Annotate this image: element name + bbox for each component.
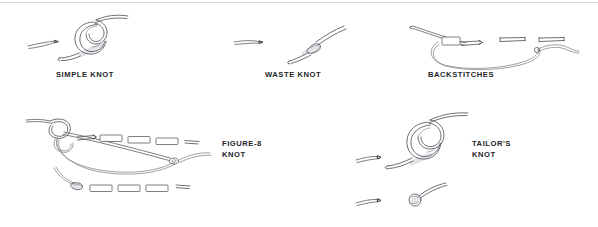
- label-tailors-knot: TAILOR'S KNOT: [472, 139, 511, 160]
- knot-illustration: [288, 26, 346, 64]
- label-waste-knot: WASTE KNOT: [265, 70, 321, 81]
- figure-simple-knot: [22, 6, 162, 68]
- figure-tailors-knot: [350, 110, 480, 220]
- thread-tail-segment: [234, 41, 263, 45]
- figure-backstitches: [408, 20, 598, 72]
- knot-illustration: [58, 15, 128, 61]
- label-figure8-knot: FIGURE-8 KNOT: [222, 139, 262, 160]
- knot-diagram-page: SIMPLE KNOT: [0, 0, 598, 227]
- small-knot-detail: [409, 183, 447, 206]
- stitch-row-upper: [77, 135, 199, 145]
- thread-tail-segment-upper: [356, 156, 381, 163]
- figure-figure8-knot: [24, 110, 224, 210]
- thread-loop: [431, 42, 579, 70]
- top-divider: [0, 2, 598, 3]
- figure8-knot-illustration: [26, 119, 73, 152]
- label-backstitches: BACKSTITCHES: [428, 70, 494, 81]
- thread-tail-segment: [28, 40, 59, 48]
- thread-tail-segment-lower: [356, 199, 381, 206]
- stitch-marks: [442, 37, 564, 46]
- tailors-knot-illustration: [385, 113, 468, 169]
- stitch-row-lower: [54, 167, 190, 192]
- figure-waste-knot: [230, 24, 360, 74]
- label-simple-knot: SIMPLE KNOT: [56, 70, 114, 81]
